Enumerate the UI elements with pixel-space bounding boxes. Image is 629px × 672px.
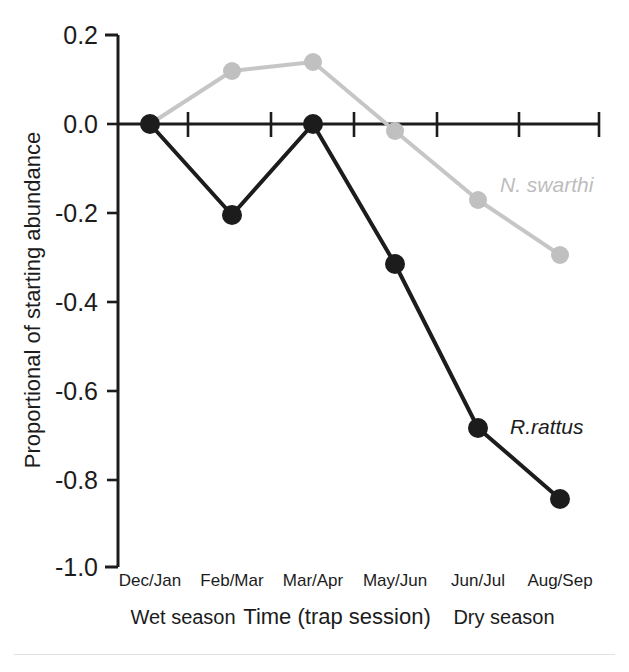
data-point-n-swarthi-2 [304,53,322,71]
y-tick-label-5: -0.8 [55,466,98,494]
y-axis-title: Proportional of starting abundance [20,132,45,468]
data-point-n-swarthi-1 [223,62,241,80]
data-point-r-rattus-2 [303,114,323,134]
y-tick-label-4: -0.6 [55,377,98,405]
abundance-line-chart: 0.2 0.0 -0.2 -0.4 -0.6 -0.8 -1.0 Proport… [0,0,629,672]
y-tick-label-2: -0.2 [55,199,98,227]
x-tick-label-0: Dec/Jan [119,571,181,590]
series-label-r-rattus: R.rattus [510,415,584,438]
x-tick-label-5: Aug/Sep [527,571,592,590]
x-tick-label-2: Mar/Apr [283,571,344,590]
figure-container: 0.2 0.0 -0.2 -0.4 -0.6 -0.8 -1.0 Proport… [0,0,629,672]
data-point-r-rattus-0 [140,114,160,134]
x-tick-label-3: May/Jun [363,571,427,590]
y-tick-label-0: 0.2 [63,21,98,49]
series-label-n-swarthi: N. swarthi [500,173,595,196]
data-point-n-swarthi-4 [469,191,487,209]
series-line-n-swarthi [150,62,560,255]
y-tick-label-6: -1.0 [55,553,98,581]
y-tick-label-3: -0.4 [55,288,98,316]
data-point-r-rattus-1 [222,205,242,225]
data-point-n-swarthi-5 [551,246,569,264]
footer-divider [14,654,615,655]
data-point-n-swarthi-3 [386,122,404,140]
y-tick-label-1: 0.0 [63,110,98,138]
season-label-wet: Wet season [130,606,235,628]
data-point-r-rattus-4 [468,418,488,438]
data-point-r-rattus-3 [385,254,405,274]
x-tick-label-4: Jun/Jul [451,571,505,590]
x-tick-label-1: Feb/Mar [200,571,264,590]
x-axis-title: Time (trap session) [243,604,430,629]
data-point-r-rattus-5 [550,489,570,509]
series-line-r-rattus [150,124,560,499]
season-label-dry: Dry season [453,606,554,628]
